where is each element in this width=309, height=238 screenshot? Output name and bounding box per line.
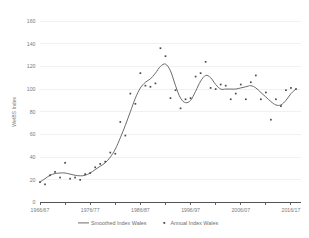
data-point: [44, 184, 46, 186]
data-point: [99, 163, 101, 165]
x-tick-label: 2016/17: [282, 207, 301, 213]
y-axis-title-text: WelBS Index: [11, 96, 17, 126]
data-point: [250, 81, 252, 83]
y-tick-label: 100: [27, 86, 36, 92]
data-point: [165, 55, 167, 57]
smoothed-index-path: [40, 64, 296, 182]
data-point: [94, 166, 96, 168]
data-point: [210, 87, 212, 89]
y-tick-label: 140: [27, 41, 36, 47]
data-point: [64, 162, 66, 164]
data-point: [205, 61, 207, 63]
data-point: [79, 179, 81, 181]
data-point: [185, 98, 187, 100]
data-point: [49, 174, 51, 176]
data-point: [150, 86, 152, 88]
y-tick-label: 60: [30, 131, 36, 137]
legend-label: Annual Index Wales: [170, 220, 218, 226]
data-point: [220, 84, 222, 86]
data-point: [285, 89, 287, 91]
x-axis: [40, 203, 301, 206]
data-point: [124, 135, 126, 137]
data-point: [200, 72, 202, 74]
data-point: [180, 108, 182, 110]
data-point: [275, 98, 277, 100]
data-point: [160, 47, 162, 49]
x-tick-label: 1986/87: [131, 207, 150, 213]
legend-dot-swatch: [163, 222, 165, 224]
data-point: [265, 92, 267, 94]
data-point: [245, 98, 247, 100]
smoothed-index-line: [40, 64, 296, 182]
y-tick-label: 120: [27, 63, 36, 69]
data-point: [69, 178, 71, 180]
data-point: [240, 84, 242, 86]
data-point: [280, 105, 282, 107]
x-tick-label: 1976/77: [81, 207, 100, 213]
data-point: [155, 83, 157, 85]
data-point: [119, 121, 121, 123]
data-point: [104, 161, 106, 163]
wales-index-line-chart: 020406080100120140160 WelBS Index 1966/6…: [0, 0, 309, 238]
data-point: [190, 97, 192, 99]
data-point: [130, 93, 132, 95]
data-point: [295, 88, 297, 90]
x-axis-tick-labels: 1966/671976/771986/871996/972006/072016/…: [31, 207, 301, 213]
data-point: [135, 103, 137, 105]
data-point: [290, 87, 292, 89]
x-tick-label: 1966/67: [31, 207, 50, 213]
data-point: [195, 76, 197, 78]
data-point: [175, 89, 177, 91]
annual-index-points: [39, 47, 297, 185]
y-tick-label: 20: [30, 177, 36, 183]
data-point: [54, 171, 56, 173]
data-point: [145, 85, 147, 87]
y-tick-label: 160: [27, 18, 36, 24]
data-point: [59, 177, 61, 179]
gridlines: [40, 21, 301, 180]
y-axis-tick-labels: 020406080100120140160: [27, 18, 36, 206]
data-point: [215, 88, 217, 90]
chart-legend: Smoothed Index WalesAnnual Index Wales: [78, 220, 218, 226]
data-point: [270, 119, 272, 121]
data-point: [109, 152, 111, 154]
x-tick-label: 1996/97: [181, 207, 200, 213]
data-point: [225, 85, 227, 87]
data-point: [84, 173, 86, 175]
x-tick-label: 2006/07: [231, 207, 250, 213]
data-point: [260, 98, 262, 100]
data-point: [74, 177, 76, 179]
data-point: [230, 98, 232, 100]
y-tick-label: 80: [30, 109, 36, 115]
data-point: [89, 172, 91, 174]
y-axis-title: WelBS Index: [11, 96, 17, 126]
data-point: [39, 181, 41, 183]
data-point: [235, 93, 237, 95]
chart-container: 020406080100120140160 WelBS Index 1966/6…: [0, 0, 309, 238]
legend-label: Smoothed Index Wales: [91, 220, 147, 226]
data-point: [255, 75, 257, 77]
y-tick-label: 0: [33, 199, 36, 205]
y-tick-label: 40: [30, 154, 36, 160]
data-point: [114, 153, 116, 155]
data-point: [140, 72, 142, 74]
data-point: [170, 97, 172, 99]
